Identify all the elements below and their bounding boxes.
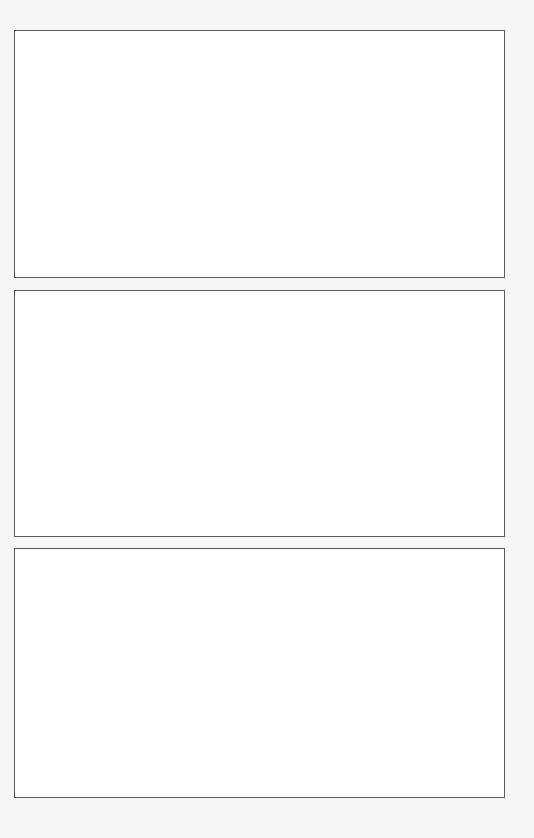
- empty-panel-2: [14, 290, 505, 537]
- empty-panel-1: [14, 30, 505, 278]
- empty-panel-3: [14, 548, 505, 798]
